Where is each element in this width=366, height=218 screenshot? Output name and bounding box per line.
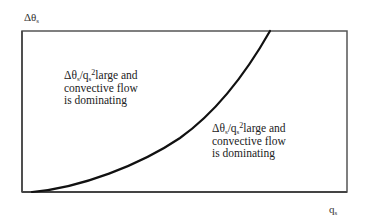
ratio-numerator: Δθ (212, 122, 225, 134)
annotation-line-3: is dominating (64, 94, 138, 107)
annotation-line-2: convective flow (212, 135, 286, 148)
plot-frame (22, 31, 347, 192)
annotation-line-1-text: large and (243, 122, 285, 134)
annotation-upper-left: Δθs/qs2large and convective flow is domi… (64, 69, 138, 107)
diagram-figure: Δθs qs Δθs/qs2large and convective flow … (0, 0, 366, 218)
ratio-numerator: Δθ (64, 69, 77, 81)
y-axis-label: Δθs (24, 11, 39, 23)
annotation-line-1: Δθs/qs2large and (64, 69, 138, 82)
x-axis-label: qs (329, 203, 337, 215)
annotation-line-2: convective flow (64, 82, 138, 95)
y-axis-label-sub: s (36, 17, 39, 25)
annotation-line-1: Δθs/qs2large and (212, 122, 286, 135)
annotation-line-1-text: large and (95, 69, 137, 81)
y-axis-label-main: Δθ (24, 11, 36, 23)
annotation-lower-right: Δθs/qs2large and convective flow is domi… (212, 122, 286, 160)
annotation-line-3: is dominating (212, 147, 286, 160)
x-axis-label-sub: s (335, 209, 338, 217)
diagram-canvas (0, 0, 366, 218)
relationship-curve (32, 31, 270, 192)
